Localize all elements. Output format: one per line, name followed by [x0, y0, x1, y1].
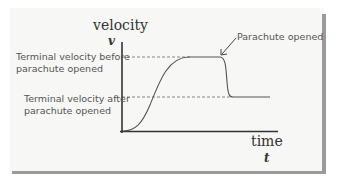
terminal-velocity-after-line2: parachute opened [24, 105, 130, 117]
terminal-velocity-before-line1: Terminal velocity before [16, 51, 130, 63]
parachute-opened-label: Parachute opened [237, 31, 323, 43]
velocity-time-graph [0, 0, 337, 179]
velocity-curve [123, 57, 270, 131]
parachute-opened-arrow [222, 38, 236, 54]
terminal-velocity-before-line2: parachute opened [16, 63, 130, 75]
terminal-velocity-after-label: Terminal velocity after parachute opened [24, 93, 130, 117]
terminal-velocity-after-line1: Terminal velocity after [24, 93, 130, 105]
y-axis-symbol: v [108, 34, 115, 48]
y-axis-title: velocity [93, 17, 148, 33]
x-axis-symbol: t [264, 151, 270, 165]
terminal-velocity-before-label: Terminal velocity before parachute opene… [16, 51, 130, 75]
x-axis-title: time [251, 133, 283, 149]
